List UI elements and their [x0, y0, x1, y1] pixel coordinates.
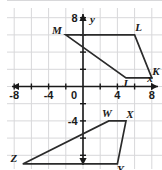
origin-label: 0 [71, 89, 77, 101]
vertex-label-M: M [51, 24, 63, 36]
x-axis-label: x [146, 72, 153, 84]
y-tick-label: 8 [71, 12, 77, 24]
vertex-label-Z: Z [9, 152, 17, 164]
x-tick-label: -4 [44, 89, 55, 101]
shapes-layer [23, 35, 152, 164]
y-tick-label: -4 [68, 115, 79, 127]
y-axis-label: y [88, 13, 95, 25]
x-tick-label: 8 [149, 89, 155, 101]
vertex-label-J: J [121, 77, 128, 89]
coordinate-plane-figure: -8-40488-4 MLKJWXYZ yx [0, 0, 162, 170]
x-tick-label: -8 [9, 89, 19, 101]
vertex-label-X: X [125, 108, 134, 120]
vertex-label-L: L [134, 21, 142, 33]
coordinate-plot: -8-40488-4 MLKJWXYZ yx [0, 0, 162, 170]
vertex-label-Y: Y [117, 163, 125, 170]
axis-name-labels-layer: yx [88, 13, 153, 84]
quadrilateral-WXYZ [23, 121, 126, 164]
x-tick-label: 4 [114, 89, 121, 101]
quadrilateral-MLKJ [66, 35, 152, 78]
vertex-label-W: W [102, 107, 113, 119]
